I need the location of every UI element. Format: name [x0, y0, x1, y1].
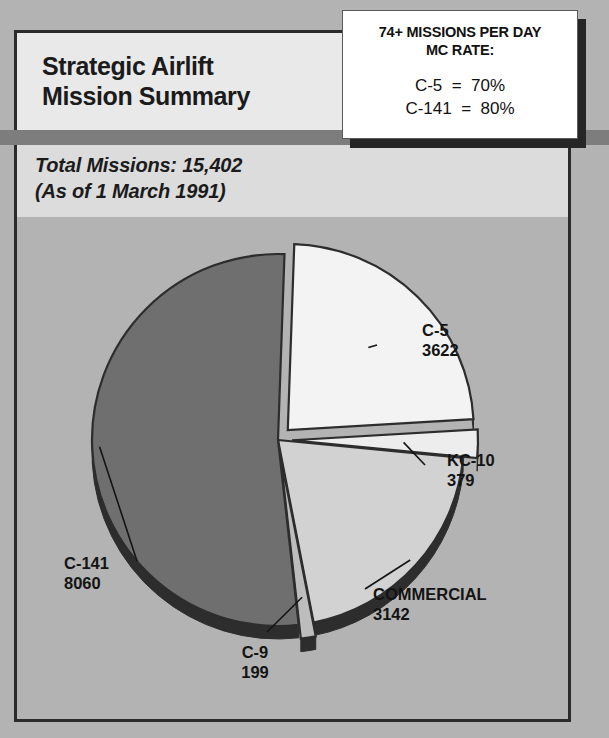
pie-value-c-5: 3622: [422, 341, 459, 359]
pie-value-c-9: 199: [241, 663, 269, 681]
pie-label-c-9: C-9: [242, 643, 269, 661]
pie-chart: C-53622KC-10379COMMERCIAL3142C-9199C-141…: [17, 217, 568, 719]
pie-label-kc-10: KC-10: [447, 451, 495, 469]
callout-rates: C-5 = 70% C-141 = 80%: [343, 75, 577, 121]
callout-rate-c141: C-141 = 80%: [343, 98, 577, 121]
pie-label-commercial: COMMERCIAL: [373, 585, 487, 603]
title-line-2: Mission Summary: [42, 82, 342, 112]
subtitle: Total Missions: 15,402 (As of 1 March 19…: [35, 152, 365, 204]
callout-header: 74+ MISSIONS PER DAY MC RATE:: [343, 23, 577, 59]
callout-header-line-1: 74+ MISSIONS PER DAY: [379, 24, 542, 40]
pie-chart-svg: C-53622KC-10379COMMERCIAL3142C-9199C-141…: [17, 217, 568, 719]
pie-value-kc-10: 379: [447, 471, 475, 489]
pie-value-c-141: 8060: [64, 574, 101, 592]
pie-label-c-5: C-5: [422, 321, 449, 339]
title-line-1: Strategic Airlift: [42, 52, 213, 80]
pie-value-commercial: 3142: [373, 605, 410, 623]
mc-rate-callout: 74+ MISSIONS PER DAY MC RATE: C-5 = 70% …: [342, 10, 578, 139]
pie-slice-c-141[interactable]: [92, 254, 299, 626]
callout-header-line-2: MC RATE:: [343, 41, 577, 59]
subtitle-line-1: Total Missions: 15,402: [35, 154, 242, 176]
poster-root: Strategic Airlift Mission Summary Total …: [0, 0, 609, 738]
pie-label-c-141: C-141: [64, 554, 109, 572]
page-title: Strategic Airlift Mission Summary: [42, 52, 342, 111]
subtitle-line-2: (As of 1 March 1991): [35, 178, 365, 204]
callout-rate-c5: C-5 = 70%: [343, 75, 577, 98]
